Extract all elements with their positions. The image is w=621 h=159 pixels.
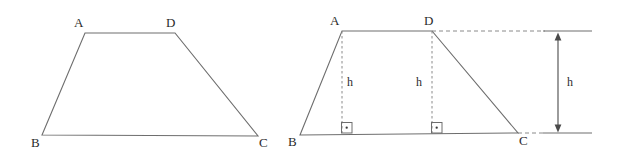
right-angle-mark-left — [342, 123, 353, 134]
left-trapezoid-outline — [42, 33, 258, 136]
left-vertex-label-c: C — [259, 136, 268, 149]
figure-canvas — [0, 0, 621, 159]
right-trapezoid-group — [300, 31, 592, 135]
right-vertex-label-a: A — [330, 14, 339, 27]
left-vertex-label-d: D — [166, 16, 175, 29]
height-label-dimension: h — [567, 76, 573, 88]
geometry-figure: A D C B A D C B h h h — [0, 0, 621, 159]
right-vertex-label-b: B — [288, 135, 297, 148]
height-dimension-arrow — [555, 33, 562, 133]
height-label-from-d: h — [416, 76, 422, 88]
right-vertex-label-c: C — [519, 134, 528, 147]
left-vertex-label-a: A — [74, 16, 83, 29]
height-label-from-a: h — [347, 76, 353, 88]
left-trapezoid-group — [42, 33, 258, 136]
right-trapezoid-outline — [300, 31, 518, 135]
right-angle-mark-right — [432, 123, 443, 134]
left-vertex-label-b: B — [31, 136, 40, 149]
right-vertex-label-d: D — [424, 14, 433, 27]
